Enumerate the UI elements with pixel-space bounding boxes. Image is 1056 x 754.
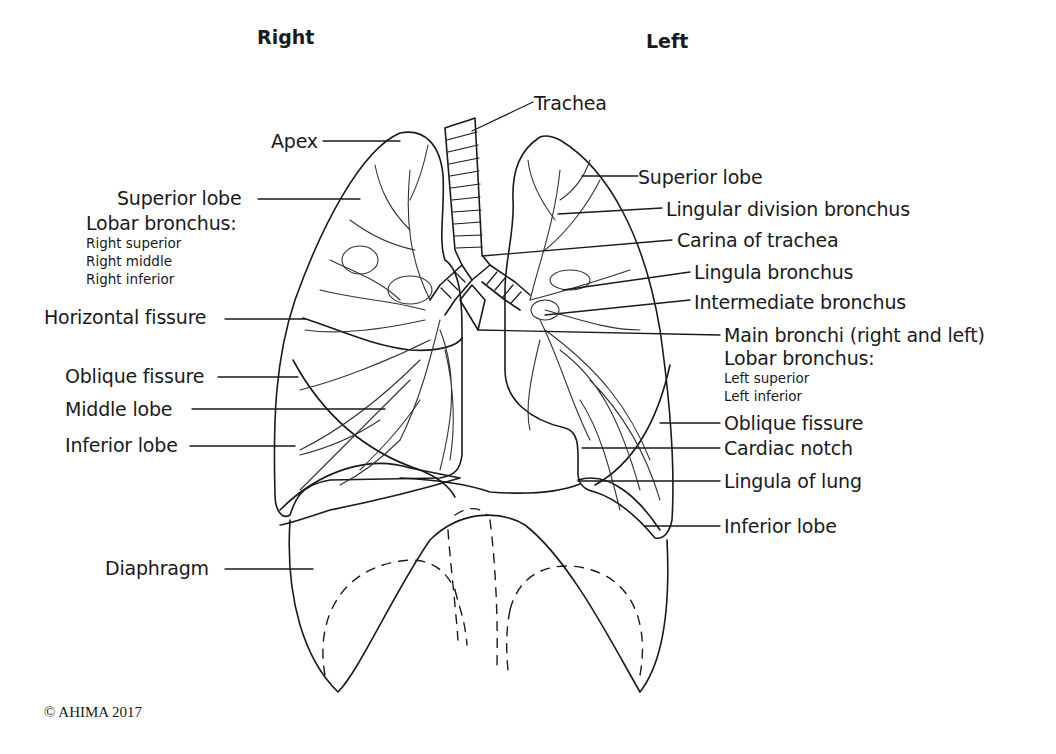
lobar-right-item-middle: Right middle xyxy=(86,254,172,269)
carina xyxy=(460,285,485,330)
lobar-right-item-inferior: Right inferior xyxy=(86,272,174,287)
label-superior-lobe-left: Superior lobe xyxy=(638,166,762,188)
copyright-notice: © AHIMA 2017 xyxy=(44,704,142,721)
lobar-right-item-superior: Right superior xyxy=(86,236,181,251)
heart-baseline xyxy=(400,478,580,493)
label-cardiac-notch: Cardiac notch xyxy=(724,437,853,459)
lobar-left-item-superior: Left superior xyxy=(724,371,809,386)
right-lower-boundary xyxy=(280,463,460,525)
label-lingula-bronchus: Lingula bronchus xyxy=(694,261,853,283)
label-lobar-bronchus-left: Lobar bronchus: xyxy=(724,347,874,369)
label-oblique-fissure-left: Oblique fissure xyxy=(724,412,863,434)
label-diaphragm: Diaphragm xyxy=(105,557,209,579)
label-trachea: Trachea xyxy=(534,92,607,114)
label-lingula-of-lung: Lingula of lung xyxy=(724,470,862,492)
label-lingular-division-bronchus: Lingular division bronchus xyxy=(666,198,910,220)
label-middle-lobe: Middle lobe xyxy=(65,398,172,420)
leader-main-bronchi xyxy=(478,330,720,335)
right-oblique-fissure xyxy=(293,360,455,497)
lobar-left-item-inferior: Left inferior xyxy=(724,389,802,404)
label-carina: Carina of trachea xyxy=(677,229,838,251)
label-intermediate-bronchus: Intermediate bronchus xyxy=(694,291,906,313)
label-lobar-bronchus-right: Lobar bronchus: xyxy=(86,212,236,234)
right-lung-outline xyxy=(274,132,462,516)
leader-intermediate-bronchus xyxy=(545,300,690,315)
label-inferior-lobe-right: Inferior lobe xyxy=(65,434,178,456)
label-superior-lobe-right: Superior lobe xyxy=(117,187,241,209)
label-apex: Apex xyxy=(271,130,318,152)
right-main-bronchus xyxy=(430,265,472,315)
label-oblique-fissure-right: Oblique fissure xyxy=(65,365,204,387)
label-main-bronchi: Main bronchi (right and left) xyxy=(724,324,985,346)
label-horizontal-fissure: Horizontal fissure xyxy=(44,306,206,328)
diaphragm-outline xyxy=(289,515,668,692)
leader-lingular-division xyxy=(558,208,662,214)
diaphragm-dash-right xyxy=(510,566,642,675)
label-inferior-lobe-left: Inferior lobe xyxy=(724,515,837,537)
leader-trachea xyxy=(472,102,533,131)
right-horizontal-fissure xyxy=(303,318,462,350)
leader-lingula-bronchus xyxy=(563,272,690,290)
diaphragm-dash-left xyxy=(323,560,455,675)
